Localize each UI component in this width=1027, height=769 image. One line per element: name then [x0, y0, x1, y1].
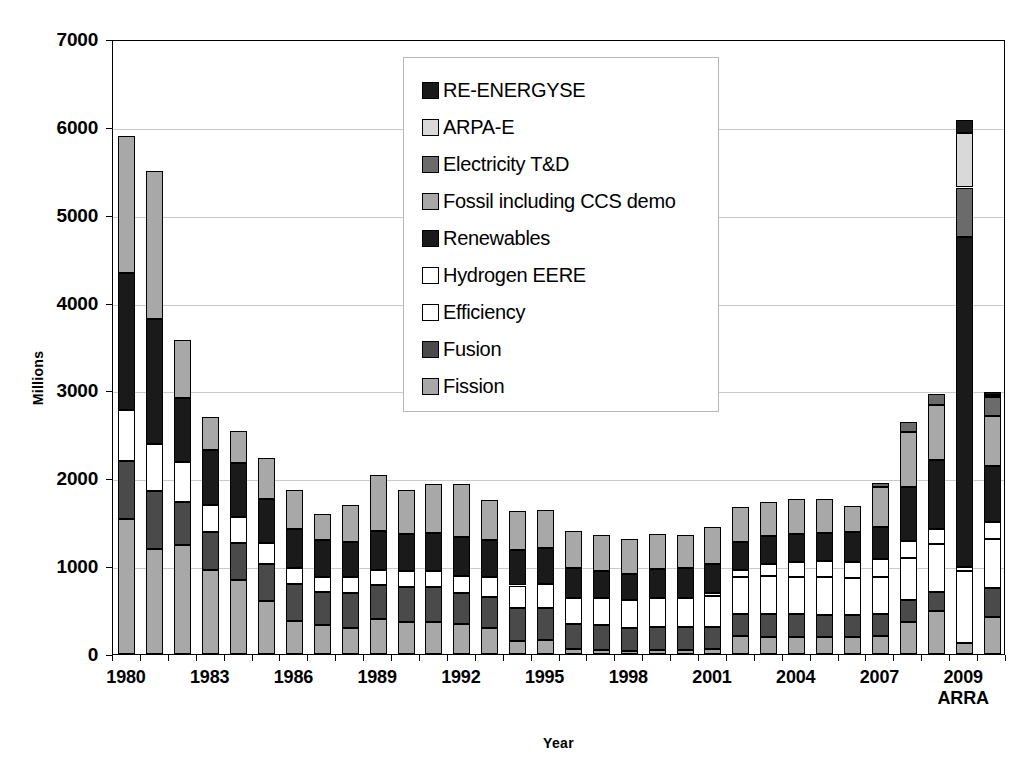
bar-segment-renewables	[593, 571, 610, 598]
legend-item-label: Fusion	[443, 338, 501, 361]
bar-2010[interactable]	[984, 39, 1001, 654]
bar-segment-fission	[453, 624, 470, 654]
bar-segment-fusion	[425, 587, 442, 621]
bar-segment-fossil-including-ccs-demo	[537, 510, 554, 548]
legend-item-label: ARPA-E	[443, 116, 514, 139]
bar-1981[interactable]	[146, 39, 163, 654]
legend-item[interactable]: Fossil including CCS demo	[422, 183, 718, 220]
bar-segment-efficiency	[509, 586, 526, 609]
x-axis-tick-label-line1: 1980	[106, 667, 145, 687]
bar-segment-efficiency	[677, 598, 694, 627]
bar-1983[interactable]	[202, 39, 219, 654]
legend-item[interactable]: Renewables	[422, 220, 718, 257]
bar-segment-fusion	[258, 564, 275, 601]
bar-segment-fusion	[202, 532, 219, 570]
x-axis-tick-mark	[726, 655, 727, 661]
bar-2005[interactable]	[816, 39, 833, 654]
bar-segment-fossil-including-ccs-demo	[928, 405, 945, 459]
bar-segment-renewables	[677, 568, 694, 598]
x-axis-tick-label: 1983	[190, 667, 229, 688]
bar-segment-efficiency	[398, 571, 415, 587]
bar-1986[interactable]	[286, 39, 303, 654]
y-axis-tick-label: 3000	[57, 380, 98, 402]
bar-segment-renewables	[872, 527, 889, 560]
bar-segment-renewables	[816, 533, 833, 561]
bar-segment-efficiency	[593, 598, 610, 625]
bar-segment-renewables	[398, 534, 415, 572]
bar-segment-renewables	[342, 542, 359, 577]
bar-segment-efficiency	[481, 577, 498, 597]
bar-segment-fossil-including-ccs-demo	[844, 506, 861, 532]
bar-segment-fusion	[453, 593, 470, 624]
legend-item-label: RE-ENERGYSE	[443, 79, 585, 102]
bar-segment-fusion	[984, 588, 1001, 617]
y-axis-tick-label: 7000	[57, 29, 98, 51]
bar-2003[interactable]	[760, 39, 777, 654]
bar-1988[interactable]	[342, 39, 359, 654]
legend-item[interactable]: Fusion	[422, 331, 718, 368]
legend-item[interactable]: Efficiency	[422, 294, 718, 331]
y-axis-title: Millions	[30, 318, 46, 438]
legend-swatch-icon	[422, 193, 439, 210]
y-axis-tick-label: 0	[88, 644, 98, 666]
bar-1982[interactable]	[174, 39, 191, 654]
bar-2004[interactable]	[788, 39, 805, 654]
x-axis-tick-mark	[447, 655, 448, 661]
legend: RE-ENERGYSEARPA-EElectricity T&DFossil i…	[403, 57, 719, 412]
y-axis-tick-label: 4000	[57, 293, 98, 315]
bar-2006[interactable]	[844, 39, 861, 654]
legend-item[interactable]: RE-ENERGYSE	[422, 72, 718, 109]
legend-item[interactable]: Fission	[422, 368, 718, 405]
bar-segment-hydrogen-eere	[816, 561, 833, 577]
bar-segment-fossil-including-ccs-demo	[565, 531, 582, 568]
bar-segment-efficiency	[872, 577, 889, 614]
bar-1984[interactable]	[230, 39, 247, 654]
legend-item[interactable]: ARPA-E	[422, 109, 718, 146]
x-axis-tick-mark	[224, 655, 225, 661]
x-axis-tick-label: 1998	[609, 667, 648, 688]
x-axis-tick-mark	[642, 655, 643, 661]
bar-2002[interactable]	[732, 39, 749, 654]
bar-segment-fossil-including-ccs-demo	[760, 502, 777, 536]
x-axis-tick-mark	[196, 655, 197, 661]
legend-swatch-icon	[422, 230, 439, 247]
bar-segment-renewables	[956, 237, 973, 567]
x-axis-tick-label: 1980	[106, 667, 145, 688]
bar-segment-renewables	[202, 450, 219, 504]
bar-segment-fossil-including-ccs-demo	[984, 416, 1001, 466]
bar-1989[interactable]	[370, 39, 387, 654]
bar-segment-renewables	[258, 499, 275, 543]
legend-swatch-icon	[422, 267, 439, 284]
bar-segment-fusion	[760, 614, 777, 637]
bar-segment-efficiency	[649, 598, 666, 627]
bar-2009[interactable]	[928, 39, 945, 654]
bar-1980[interactable]	[118, 39, 135, 654]
bar-segment-fission	[872, 636, 889, 654]
legend-item[interactable]: Electricity T&D	[422, 146, 718, 183]
bar-segment-efficiency	[900, 558, 917, 600]
x-axis-tick-label: 1989	[357, 667, 396, 688]
bar-segment-efficiency	[453, 576, 470, 594]
legend-item[interactable]: Hydrogen EERE	[422, 257, 718, 294]
bar-2008[interactable]	[900, 39, 917, 654]
bar-segment-efficiency	[984, 539, 1001, 588]
bar-segment-hydrogen-eere	[844, 562, 861, 578]
x-axis-tick-mark	[168, 655, 169, 661]
bar-arra[interactable]	[956, 39, 973, 654]
bar-segment-renewables	[118, 273, 135, 410]
bar-segment-fossil-including-ccs-demo	[118, 136, 135, 273]
bar-segment-fossil-including-ccs-demo	[230, 431, 247, 464]
bar-segment-renewables	[844, 532, 861, 562]
bar-segment-fusion	[872, 614, 889, 637]
bar-segment-efficiency	[621, 600, 638, 627]
bar-segment-fission	[481, 628, 498, 654]
bar-segment-fusion	[649, 627, 666, 650]
bar-segment-efficiency	[370, 570, 387, 586]
bar-2007[interactable]	[872, 39, 889, 654]
bar-segment-fission	[202, 570, 219, 654]
bar-segment-fossil-including-ccs-demo	[509, 511, 526, 551]
bar-segment-efficiency	[704, 596, 721, 627]
bar-segment-efficiency	[146, 444, 163, 491]
bar-1987[interactable]	[314, 39, 331, 654]
bar-1985[interactable]	[258, 39, 275, 654]
